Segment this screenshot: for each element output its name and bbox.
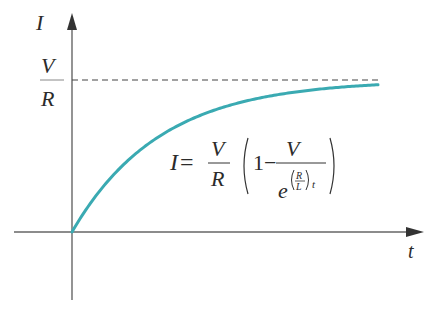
equation: I = V R 1 − V e R L t — [169, 136, 334, 203]
svg-text:I: I — [169, 149, 179, 175]
svg-text:−: − — [264, 150, 276, 175]
x-axis-arrow-icon — [406, 227, 424, 237]
y-axis-label: I — [35, 10, 45, 35]
asymptote-label-denominator: R — [40, 86, 55, 111]
y-axis-arrow-icon — [67, 13, 77, 30]
svg-text:e: e — [278, 178, 288, 203]
svg-text:V: V — [286, 136, 302, 161]
svg-text:R: R — [210, 166, 225, 191]
svg-text:1: 1 — [253, 150, 264, 175]
asymptote-label-numerator: V — [41, 53, 57, 78]
svg-text:R: R — [295, 170, 302, 181]
svg-text:=: = — [180, 149, 194, 175]
svg-text:t: t — [312, 178, 316, 190]
x-axis-label: t — [408, 240, 414, 262]
svg-text:V: V — [211, 136, 227, 161]
svg-text:L: L — [295, 181, 302, 192]
current-curve — [72, 85, 378, 232]
chart: I V R t I = V R 1 − V e R L t — [0, 0, 424, 318]
